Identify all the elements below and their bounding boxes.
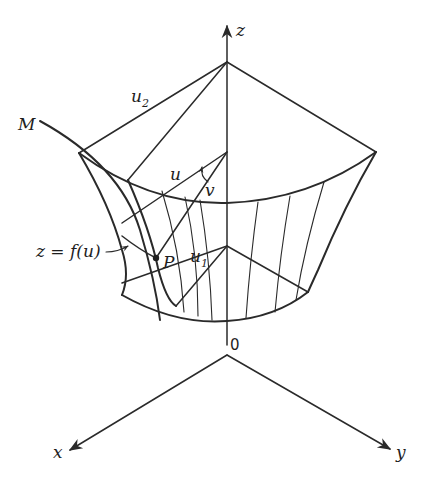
point-P [153,255,159,261]
surface-of-revolution-diagram: z x y 0 [0,0,426,477]
equation-pointer-arrow [106,246,128,252]
meridian-through-P [128,180,176,306]
label-M: M [17,114,36,134]
label-equation: z = f(u) [35,241,101,261]
x-axis [70,355,227,450]
meridian-left-corner [79,153,126,295]
lower-parallel-circle [122,292,308,321]
origin-label: 0 [230,336,240,354]
label-v: v [205,180,215,200]
z-axis-label: z [235,20,246,40]
x-axis-label: x [53,442,63,462]
y-axis-label: y [395,442,406,462]
label-u: u [170,164,181,184]
y-axis [227,355,390,449]
meridian-curve-M [40,121,160,320]
label-P: P [162,252,175,272]
label-u1: u1 [190,246,208,270]
label-u2: u2 [131,86,149,110]
coordinate-axes: z x y 0 [53,20,406,462]
